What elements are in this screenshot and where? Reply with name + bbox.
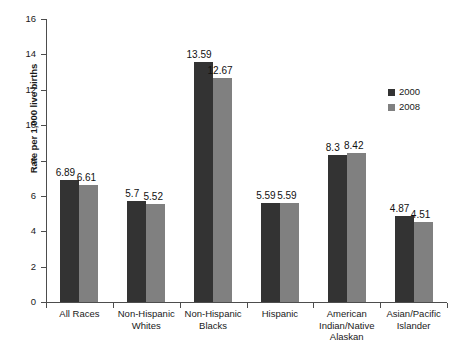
value-label-2000-2: 13.59 xyxy=(182,50,216,60)
bar-2000-5[interactable] xyxy=(395,216,414,302)
bar-2008-1[interactable] xyxy=(146,204,165,302)
legend-item-2000[interactable]: 2000 xyxy=(388,86,420,98)
bar-group: 8.38.42 xyxy=(328,19,366,302)
y-tick-label-0: 0 xyxy=(8,297,36,307)
bar-2008-2[interactable] xyxy=(213,78,232,302)
y-tick-label-4: 4 xyxy=(8,226,36,236)
y-tick-label-14: 14 xyxy=(8,49,36,59)
value-label-2008-2: 12.67 xyxy=(203,66,237,76)
bar-2000-0[interactable] xyxy=(60,180,79,302)
value-label-2008-5: 4.51 xyxy=(404,210,438,220)
chart-legend: 2000 2008 xyxy=(388,86,420,116)
value-label-2008-4: 8.42 xyxy=(337,141,371,151)
legend-item-2008[interactable]: 2008 xyxy=(388,101,420,113)
bar-group: 6.896.61 xyxy=(60,19,98,302)
bar-2008-0[interactable] xyxy=(79,185,98,302)
bar-2000-1[interactable] xyxy=(127,201,146,302)
legend-label-2000: 2000 xyxy=(399,86,420,98)
y-tick-label-10: 10 xyxy=(8,120,36,130)
legend-label-2008: 2008 xyxy=(399,101,420,113)
legend-swatch-2000 xyxy=(388,89,395,96)
y-tick-label-16: 16 xyxy=(8,14,36,24)
bar-group: 5.75.52 xyxy=(127,19,165,302)
category-label-5: Asian/Pacific Islander xyxy=(369,308,454,331)
plot-area: 6.896.615.75.5213.5912.675.595.598.38.42… xyxy=(46,19,447,302)
y-tick-label-8: 8 xyxy=(8,156,36,166)
bar-chart: Rate per 1,000 live births 0246810121416… xyxy=(0,0,454,361)
bar-2000-4[interactable] xyxy=(328,155,347,302)
value-label-2008-3: 5.59 xyxy=(270,191,304,201)
bar-2008-3[interactable] xyxy=(280,203,299,302)
y-tick-label-2: 2 xyxy=(8,262,36,272)
legend-swatch-2008 xyxy=(388,104,395,111)
bar-2008-5[interactable] xyxy=(414,222,433,302)
value-label-2008-0: 6.61 xyxy=(69,173,103,183)
y-tick-label-6: 6 xyxy=(8,191,36,201)
bar-2000-2[interactable] xyxy=(194,62,213,302)
value-label-2008-1: 5.52 xyxy=(136,192,170,202)
bar-2000-3[interactable] xyxy=(261,203,280,302)
y-tick-label-12: 12 xyxy=(8,85,36,95)
bar-group: 5.595.59 xyxy=(261,19,299,302)
bar-group: 13.5912.67 xyxy=(194,19,232,302)
bar-group: 4.874.51 xyxy=(395,19,433,302)
bar-2008-4[interactable] xyxy=(347,153,366,302)
